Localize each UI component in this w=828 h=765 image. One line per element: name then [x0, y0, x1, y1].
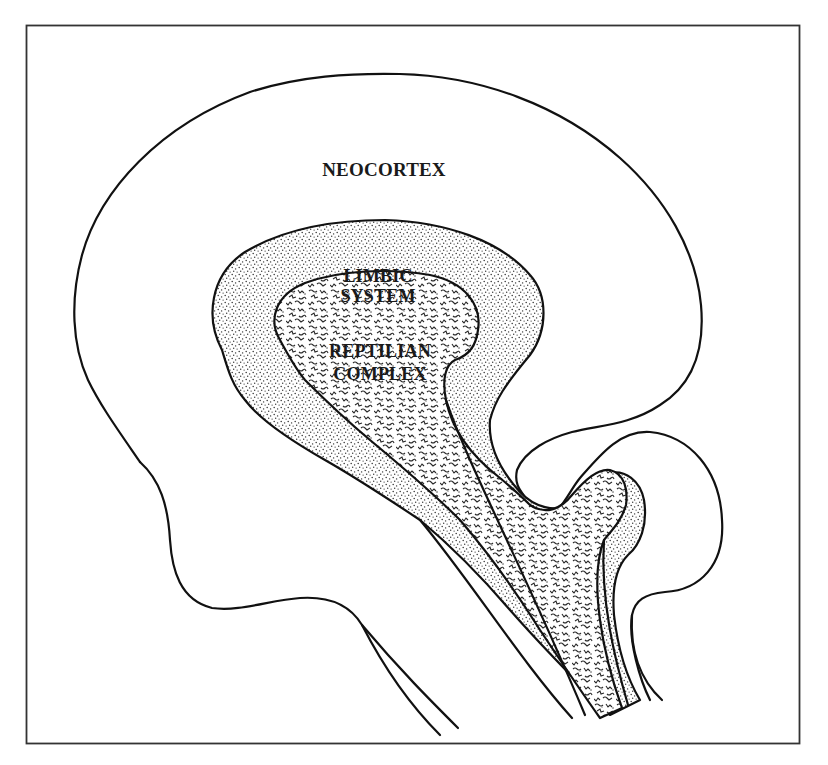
reptilian-complex-region [274, 271, 626, 718]
brainstem-line-1 [362, 625, 458, 728]
limbic-system-label-line-2: SYSTEM [340, 286, 415, 306]
triune-brain-figure: NEOCORTEX LIMBIC SYSTEM REPTILIAN COMPLE… [0, 0, 828, 765]
brainstem-line-5 [632, 615, 662, 700]
reptilian-complex-label-line-2: COMPLEX [333, 364, 426, 384]
neocortex-label: NEOCORTEX [322, 159, 446, 180]
limbic-system-label-line-1: LIMBIC [343, 266, 412, 286]
reptilian-complex-label-line-1: REPTILIAN [329, 341, 431, 361]
